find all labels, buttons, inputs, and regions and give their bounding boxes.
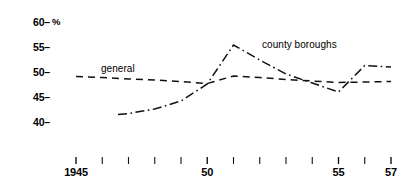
line-chart: % 60–55–50–45–40– 1945505557 general cou… [0,0,410,194]
data-series-layer [76,45,391,115]
series-label-general: general [101,63,135,74]
series-line-general [76,76,391,84]
plot-area [0,0,410,194]
series-line-county-boroughs [118,45,391,115]
series-label-county-boroughs: county boroughs [262,39,337,50]
x-axis-tick-marks [76,157,391,164]
